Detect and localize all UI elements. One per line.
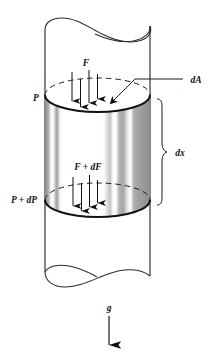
label-area-element: dA	[190, 75, 201, 85]
thickness-brace-path	[157, 99, 167, 205]
label-gravity: g	[106, 303, 112, 313]
pipe-top-tear-inner	[95, 26, 150, 42]
thickness-brace	[157, 99, 167, 205]
label-pressure-top: P	[33, 93, 39, 103]
label-thickness: dx	[175, 148, 185, 158]
pipe-bottom-tear	[45, 270, 150, 287]
pipe-top-tear	[45, 18, 151, 42]
label-force-bottom: F + dF	[73, 162, 102, 172]
label-force-top: F	[82, 58, 90, 68]
diagram-canvas: F P F + dF P + dP dA dx g	[0, 0, 219, 360]
label-pressure-bottom: P + dP	[11, 195, 37, 205]
pressure-gradient-diagram: F P F + dF P + dP dA dx g	[0, 0, 219, 360]
pipe-bottom-tear-inner	[45, 265, 97, 277]
